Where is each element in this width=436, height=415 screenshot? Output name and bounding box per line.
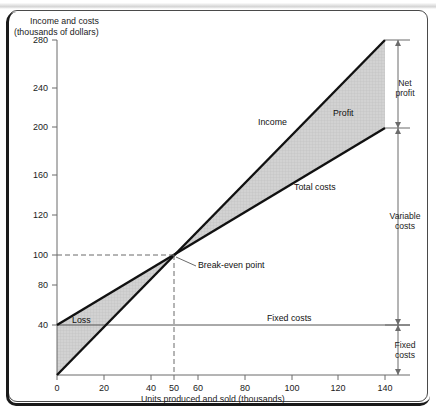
x-tick-60: 60: [185, 383, 211, 393]
x-tick-0: 0: [44, 383, 70, 393]
total-costs-line: [57, 128, 385, 325]
y-tick-240: 240: [18, 83, 48, 93]
x-axis-title: Units produced and sold (thousands): [141, 394, 285, 404]
break-even-leader-line: [176, 257, 196, 266]
x-tick-140: 140: [372, 383, 398, 393]
fixed-costs-bracket-label-line2: costs: [378, 350, 432, 360]
fixed-costs-label: Fixed costs: [267, 313, 312, 323]
y-tick-40: 40: [18, 320, 48, 330]
figure-page: Income and costs (thousands of dollars) …: [0, 0, 436, 415]
break-even-chart: [0, 0, 436, 415]
y-tick-200: 200: [18, 122, 48, 132]
profit-label: Profit: [333, 108, 354, 118]
y-axis-title-line1: Income and costs: [30, 16, 99, 26]
net-profit-label-line2: profit: [378, 88, 432, 98]
x-tick-100: 100: [279, 383, 305, 393]
y-tick-280: 280: [18, 35, 48, 45]
break-even-point-label: Break-even point: [198, 260, 265, 270]
net-profit-label-line1: Net: [378, 78, 432, 88]
x-tick-marks: [57, 375, 385, 380]
y-tick-160: 160: [18, 170, 48, 180]
loss-label: Loss: [72, 315, 91, 325]
y-tick-80: 80: [18, 280, 48, 290]
income-label: Income: [258, 117, 287, 127]
variable-costs-label-line1: Variable: [378, 211, 432, 221]
variable-costs-label-line2: costs: [378, 221, 432, 231]
total-costs-label: Total costs: [294, 182, 336, 192]
x-tick-50: 50: [161, 383, 187, 393]
y-tick-120: 120: [18, 210, 48, 220]
x-tick-80: 80: [232, 383, 258, 393]
fixed-costs-bracket-label-line1: Fixed: [378, 340, 432, 350]
x-tick-120: 120: [325, 383, 351, 393]
x-tick-20: 20: [91, 383, 117, 393]
y-tick-marks: [52, 40, 57, 325]
y-tick-100: 100: [18, 250, 48, 260]
